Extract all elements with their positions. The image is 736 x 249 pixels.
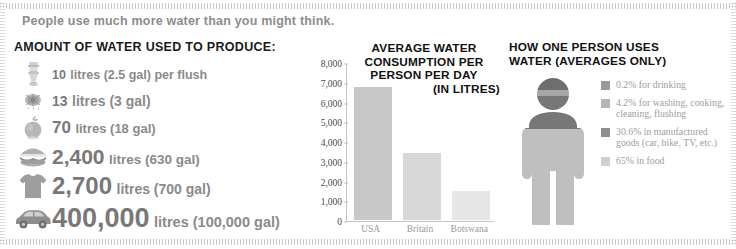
y-tick-label: 6,000 [321,99,342,109]
legend-swatch [601,128,610,137]
list-item-text: 10 litres (2.5 gal) per flush [52,66,207,82]
legend-item: 0.2% for drinking [601,79,727,91]
list-item-suffix: litres (3 gal) [72,93,151,109]
legend-label: 65% in food [616,155,664,167]
x-label: Botswana [445,224,493,234]
person-body [515,112,595,227]
legend-swatch [601,157,610,166]
list-item-number: 10 [52,68,66,82]
y-tick-label: 3,000 [321,158,342,168]
list-item-text: 13 litres (3 gal) [52,93,151,109]
person-pictogram [505,75,601,227]
y-tick-label: 0 [337,217,342,227]
legend-label: 4.2% for washing, cooking, cleaning, flu… [616,97,727,120]
y-tick-label: 4,000 [321,138,342,148]
list-item-text: 70 litres (18 gal) [52,119,156,136]
water-consumption-chart-section: AVERAGE WATER CONSUMPTION PER PERSON PER… [300,42,500,242]
car-icon [14,205,52,232]
banner-text: People use much more water than you migh… [22,14,334,28]
legend-item: 30.6% in manufactured goods (car, bike, … [601,126,727,149]
person-water-usage-section: HOW ONE PERSON USES WATER (AVERAGES ONLY… [505,40,727,227]
y-tick-label: 1,000 [321,197,342,207]
list-item: 2,400 litres (630 gal) [14,141,314,171]
list-item: 70 litres (18 gal) [14,114,314,141]
left-section-heading: AMOUNT OF WATER USED TO PRODUCE: [14,40,314,54]
legend-item: 4.2% for washing, cooking, cleaning, flu… [601,97,727,120]
infographic-root: People use much more water than you migh… [0,0,736,249]
right-heading-line: HOW ONE PERSON USES [509,40,659,54]
person-and-legend: 0.2% for drinking 4.2% for washing, cook… [505,75,727,227]
top-border-hatch [0,3,736,9]
list-item: 2,700 litres (700 gal) [14,171,314,201]
list-item-number: 400,000 [52,203,150,233]
x-label: USA [347,224,395,234]
list-item-suffix: litres (100,000 gal) [154,214,280,230]
water-usage-list-section: AMOUNT OF WATER USED TO PRODUCE: 10 litr… [14,40,314,235]
y-tick-label: 5,000 [321,118,342,128]
right-border-hatch [731,3,736,245]
legend-swatch [601,99,610,108]
bar-usa [354,87,392,220]
chart-x-axis-labels: USA Britain Botswana [346,224,494,234]
legend-item: 65% in food [601,155,727,167]
list-item-number: 2,400 [52,145,105,168]
y-tick-label: 2,000 [321,178,342,188]
list-item-suffix: litres (2.5 gal) per flush [70,68,207,82]
list-item-text: 2,700 litres (700 gal) [52,174,211,198]
legend-label: 0.2% for drinking [616,79,686,91]
list-item: 13 litres (3 gal) [14,87,314,114]
x-label: Britain [396,224,444,234]
list-item-number: 2,700 [52,172,112,199]
usage-legend: 0.2% for drinking 4.2% for washing, cook… [601,75,727,227]
list-item: 10 litres (2.5 gal) per flush [14,60,314,87]
shower-icon [14,87,52,114]
list-item-text: 400,000 litres (100,000 gal) [52,205,280,232]
toilet-icon [14,60,52,87]
bar-botswana [452,191,490,220]
right-heading-line: WATER (AVERAGES ONLY) [509,54,666,68]
chart-plot-area [346,64,494,222]
left-border-hatch [0,3,5,245]
chart-title-line: AVERAGE WATER [371,41,476,55]
bar-britain [403,153,441,220]
list-item-suffix: litres (700 gal) [117,181,211,197]
list-item-suffix: litres (18 gal) [75,121,155,136]
apple-icon [14,114,52,141]
list-item-number: 70 [52,118,71,137]
person-head [535,77,571,112]
legend-label: 30.6% in manufactured goods (car, bike, … [616,126,727,149]
legend-swatch [601,81,610,90]
list-item-text: 2,400 litres (630 gal) [52,146,200,167]
right-section-heading: HOW ONE PERSON USES WATER (AVERAGES ONLY… [509,40,727,68]
list-item-number: 13 [52,93,68,109]
hamburger-icon [14,143,52,170]
y-tick-label: 7,000 [321,79,342,89]
chart-bars [348,63,495,220]
chart-y-axis: 01,0002,0003,0004,0005,0006,0007,0008,00… [300,64,346,223]
tshirt-icon [14,173,52,200]
list-item-suffix: litres (630 gal) [109,152,200,167]
y-tick-label: 8,000 [321,59,342,69]
list-item: 400,000 litres (100,000 gal) [14,201,314,235]
